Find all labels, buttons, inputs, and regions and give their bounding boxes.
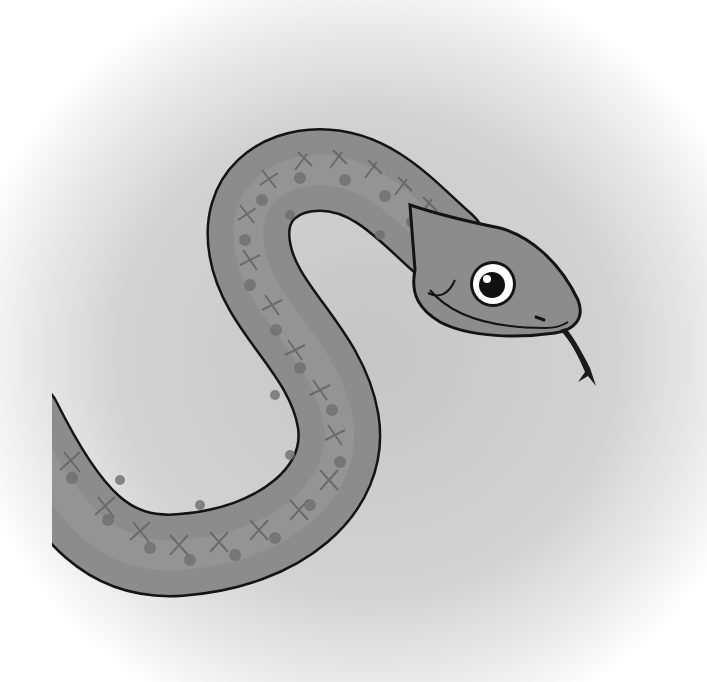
snake-illustration [0,0,707,682]
eye [470,261,516,307]
